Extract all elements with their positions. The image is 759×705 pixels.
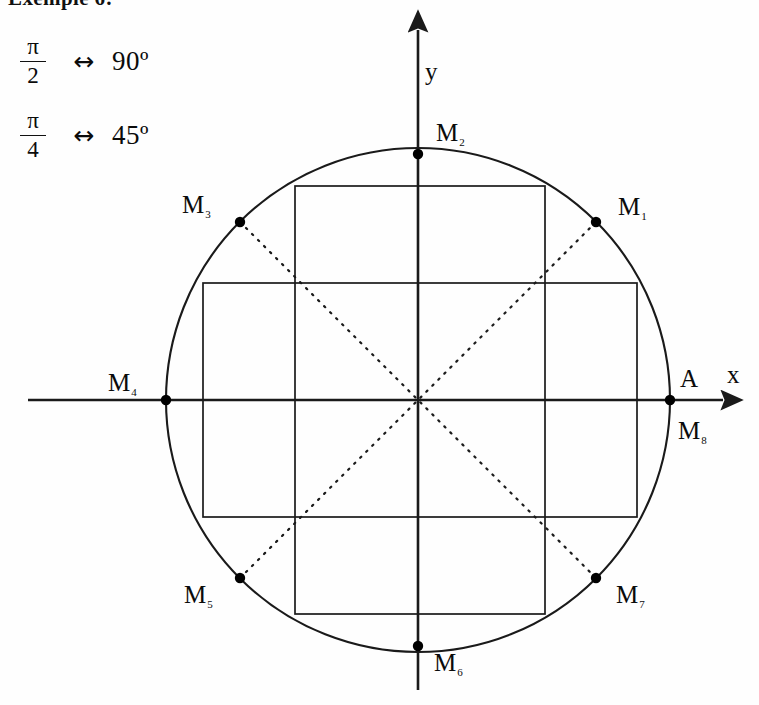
point-marker-m7 xyxy=(591,573,601,583)
point-marker-m8 xyxy=(665,395,675,405)
point-label-m3: M3 xyxy=(182,192,210,217)
point-label-letter: M xyxy=(182,191,204,218)
point-label-m6: M6 xyxy=(434,650,462,675)
point-label-letter: M xyxy=(108,369,130,396)
point-marker-m4 xyxy=(161,395,171,405)
point-marker-m5 xyxy=(235,573,245,583)
point-label-a: A xyxy=(680,366,698,391)
point-label-m1: M1 xyxy=(618,194,646,219)
y-axis-label: y xyxy=(425,59,438,84)
point-marker-m3 xyxy=(235,217,245,227)
point-label-subscript: 7 xyxy=(639,598,645,610)
point-label-subscript: 5 xyxy=(207,598,213,610)
point-label-m2: M2 xyxy=(436,120,464,145)
point-label-letter: M xyxy=(616,581,638,608)
point-label-subscript: 4 xyxy=(131,386,137,398)
point-label-letter: M xyxy=(436,119,458,146)
point-label-letter: M xyxy=(678,417,700,444)
circle-plot-svg xyxy=(0,0,759,705)
point-label-m7: M7 xyxy=(616,582,644,607)
point-label-subscript: 2 xyxy=(459,136,465,148)
circle-diagram: Exemple 6: π 2 ↔ 90º π 4 ↔ 45º xyxy=(0,0,759,705)
point-label-m8: M8 xyxy=(678,418,706,443)
point-marker-m1 xyxy=(591,217,601,227)
point-label-subscript: 1 xyxy=(641,210,647,222)
point-label-subscript: 3 xyxy=(205,208,211,220)
point-label-m5: M5 xyxy=(184,582,212,607)
point-label-letter: M xyxy=(434,649,456,676)
point-label-subscript: 8 xyxy=(701,434,707,446)
point-label-letter: M xyxy=(618,193,640,220)
point-label-letter: M xyxy=(184,581,206,608)
point-marker-m2 xyxy=(413,149,423,159)
x-axis-label: x xyxy=(727,362,740,387)
point-marker-m6 xyxy=(413,641,423,651)
point-label-m4: M4 xyxy=(108,370,136,395)
point-label-subscript: 6 xyxy=(457,666,463,678)
